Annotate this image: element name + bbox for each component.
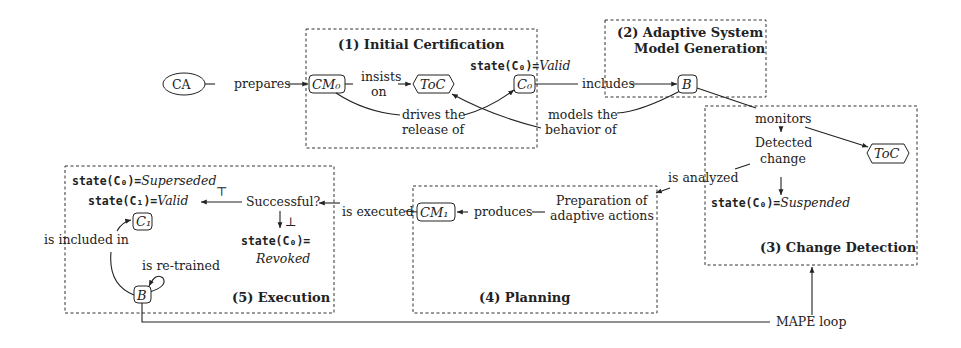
edge-label-is-executed: is executed bbox=[342, 204, 414, 219]
edge-label-successful: Successful? bbox=[246, 194, 321, 209]
edge-label-prepares: prepares bbox=[234, 76, 291, 91]
node-cm0-label: CM₀ bbox=[312, 77, 341, 92]
edge-label-is-included-in: is included in bbox=[44, 232, 129, 247]
phase-title-model-generation-line2: Model Generation bbox=[634, 41, 766, 56]
phase-title-initial-certification: (1) Initial Certification bbox=[338, 37, 505, 52]
phase-title-planning: (4) Planning bbox=[479, 290, 570, 305]
node-toc-initial-label: ToC bbox=[420, 77, 445, 92]
edge-label-insists-2: on bbox=[371, 84, 387, 99]
edge-label-detected-1: Detected bbox=[755, 135, 812, 150]
edge-label-mape-loop: MAPE loop bbox=[776, 314, 846, 329]
edge-label-true: ⊤ bbox=[216, 184, 228, 199]
edge-label-preparation-2: adaptive actions bbox=[550, 208, 654, 223]
node-b-execution-label: B bbox=[136, 288, 147, 303]
edge-label-false: ⊥ bbox=[285, 214, 297, 229]
edge-label-preparation-1: Preparation of bbox=[556, 193, 649, 208]
edge-label-models-1: models the bbox=[548, 107, 618, 122]
phase-title-change-detection: (3) Change Detection bbox=[760, 240, 917, 255]
edge-label-models-2: behavior of bbox=[545, 122, 618, 137]
edge-label-includes: includes bbox=[582, 76, 635, 91]
phase-title-model-generation-line1: (2) Adaptive System bbox=[617, 25, 763, 40]
node-b-model-label: B bbox=[681, 77, 692, 92]
edge-label-drives-1: drives the bbox=[402, 107, 465, 122]
mape-certification-diagram: (1) Initial Certification (2) Adaptive S… bbox=[0, 0, 961, 348]
node-c0-label: C₀ bbox=[517, 77, 533, 92]
edge-label-drives-2: release of bbox=[402, 122, 466, 137]
node-cm1-label: CM₁ bbox=[420, 205, 448, 220]
edge-label-detected-2: change bbox=[760, 151, 806, 166]
state-c0-revoked-line1: state(C₀)= bbox=[241, 234, 310, 248]
state-c0-superseded: state(C₀)=Superseded bbox=[72, 173, 216, 188]
edge-label-is-analyzed: is analyzed bbox=[668, 170, 738, 185]
node-c1-label: C₁ bbox=[136, 214, 151, 229]
state-c1-valid: state(C₁)=Valid bbox=[88, 193, 189, 208]
node-toc-detection-label: ToC bbox=[874, 146, 899, 161]
state-c0-revoked-value: Revoked bbox=[255, 251, 310, 266]
edge-label-produces: produces bbox=[474, 204, 532, 219]
state-c0-valid: state(C₀)=Valid bbox=[470, 58, 571, 73]
edge-label-insists-1: insists bbox=[361, 69, 401, 84]
state-c0-suspended: state(C₀)=Suspended bbox=[711, 195, 850, 210]
edge-label-monitors: monitors bbox=[755, 111, 811, 126]
phase-title-execution: (5) Execution bbox=[232, 290, 331, 305]
edge-label-is-retrained: is re-trained bbox=[142, 258, 220, 273]
node-ca-label: CA bbox=[172, 77, 192, 92]
